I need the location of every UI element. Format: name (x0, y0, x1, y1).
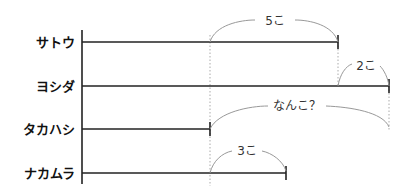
row-label-nakamura: ナカムラ (24, 166, 75, 181)
brace-sato-5: 5こ (210, 14, 338, 42)
brace-nakamura-3: 3こ (210, 144, 286, 173)
brace-label-unknown: なんこ？ (273, 99, 321, 113)
brace-takahashi-unknown: なんこ？ (210, 99, 389, 129)
brace-label-2: 2こ (356, 59, 376, 73)
tape-takahashi (82, 122, 210, 136)
tape-diagram: サトウ ヨシダ タカハシ ナカムラ 5こ 2こ なんこ？ 3こ (0, 0, 412, 196)
tape-yoshida (82, 79, 389, 93)
brace-label-3: 3こ (237, 144, 257, 158)
row-label-takahashi: タカハシ (23, 122, 75, 137)
tape-nakamura (82, 166, 286, 180)
row-label-yoshida: ヨシダ (36, 79, 75, 94)
row-label-sato: サトウ (36, 35, 75, 50)
brace-label-5: 5こ (265, 14, 285, 28)
brace-yoshida-2: 2こ (338, 59, 389, 86)
